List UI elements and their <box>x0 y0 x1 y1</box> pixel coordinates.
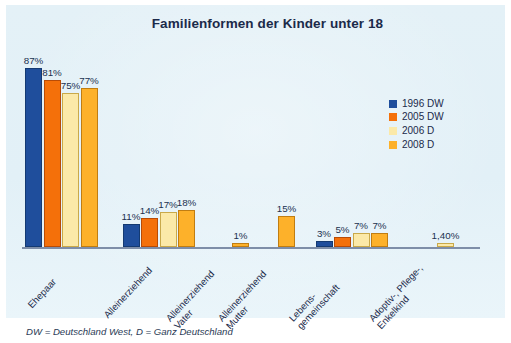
bar <box>371 233 388 247</box>
bar-value-label: 1,40% <box>430 230 462 241</box>
bar-value-label: 75% <box>61 80 81 91</box>
legend-label: 1996 DW <box>402 99 444 109</box>
bar <box>25 68 42 247</box>
bar-value-label: 77% <box>79 75 99 86</box>
bar <box>160 212 177 247</box>
bar <box>178 210 195 247</box>
bar-value-label: 14% <box>140 205 160 216</box>
legend-swatch-icon <box>389 141 397 149</box>
bar <box>62 93 79 248</box>
bar-value-label: 17% <box>158 199 178 210</box>
bar-value-label: 7% <box>370 220 390 231</box>
bar-value-label: 15% <box>277 203 297 214</box>
legend-label: 2006 D <box>402 126 434 136</box>
bar-value-label: 11% <box>121 211 141 222</box>
bar-value-label: 1% <box>231 230 251 241</box>
legend-item: 2006 D <box>389 124 444 138</box>
legend-swatch-icon <box>389 100 397 108</box>
bar <box>437 243 454 247</box>
legend-swatch-icon <box>389 127 397 135</box>
bar-value-label: 7% <box>351 220 371 231</box>
bar <box>353 233 370 247</box>
bar <box>123 224 140 247</box>
bar-value-label: 81% <box>42 67 62 78</box>
chart-legend: 1996 DW2005 DW2006 D2008 D <box>389 97 444 151</box>
bar <box>316 241 333 247</box>
bar <box>278 216 295 247</box>
legend-label: 2008 D <box>402 140 434 150</box>
bar <box>232 243 249 247</box>
bar-value-label: 5% <box>333 224 353 235</box>
bar <box>44 80 61 247</box>
bar-value-label: 87% <box>24 55 44 66</box>
axis-baseline <box>22 247 480 249</box>
chart-frame: Familienformen der Kinder unter 18 87%81… <box>0 0 511 343</box>
bar <box>81 88 98 247</box>
legend-label: 2005 DW <box>402 112 444 122</box>
bar-value-label: 18% <box>177 197 197 208</box>
legend-item: 2005 DW <box>389 111 444 125</box>
chart-footnote: DW = Deutschland West, D = Ganz Deutschl… <box>26 326 233 337</box>
legend-item: 2008 D <box>389 138 444 152</box>
bar <box>141 218 158 247</box>
legend-item: 1996 DW <box>389 97 444 111</box>
bar <box>334 237 351 247</box>
bar-value-label: 3% <box>314 228 334 239</box>
legend-swatch-icon <box>389 113 397 121</box>
